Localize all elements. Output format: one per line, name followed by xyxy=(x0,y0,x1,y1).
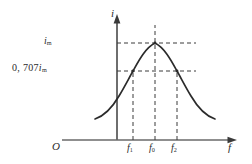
peak-value-label: im xyxy=(44,36,52,46)
f1-axis-label: f1 xyxy=(127,143,133,153)
x-axis-label: f xyxy=(228,142,231,153)
resonance-curve-figure: i f O im 0, 707im f1 f0 f2 xyxy=(0,0,252,164)
f2-subscript: 2 xyxy=(174,146,177,153)
figure-canvas xyxy=(0,0,252,164)
y-axis-arrowhead xyxy=(114,14,121,24)
f0-subscript: 0 xyxy=(152,146,155,153)
f1-subscript: 1 xyxy=(130,146,133,153)
f1-intersection-marker xyxy=(132,70,135,73)
half-power-subscript: m xyxy=(42,66,47,73)
peak-value-subscript: m xyxy=(47,39,52,46)
y-axis-label: i xyxy=(111,8,114,19)
f2-axis-label: f2 xyxy=(171,143,177,153)
half-power-coefficient: 0, 707 xyxy=(12,62,39,73)
f0-axis-label: f0 xyxy=(149,143,155,153)
origin-label: O xyxy=(52,141,60,152)
half-power-value-label: 0, 707im xyxy=(12,63,47,73)
peak-point-marker xyxy=(154,42,157,45)
f2-intersection-marker xyxy=(176,70,179,73)
